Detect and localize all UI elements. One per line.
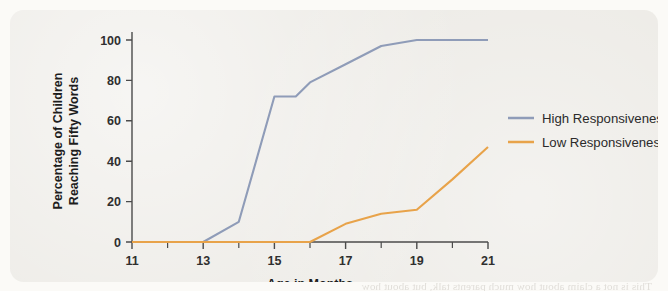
legend-label-low: Low Responsiveness: [542, 135, 658, 150]
chart-series: [132, 40, 488, 242]
x-tick-label: 17: [339, 254, 353, 268]
x-tick-label: 15: [267, 254, 281, 268]
series-line-low: [132, 147, 488, 242]
y-tick-label: 20: [107, 195, 121, 209]
y-tick-label: 80: [107, 74, 121, 88]
figure-panel: 020406080100111315171921 Age in MonthsPe…: [10, 10, 658, 282]
chart-legend: High ResponsivenessLow Responsiveness: [508, 111, 658, 150]
x-tick-label: 19: [410, 254, 424, 268]
x-tick-label: 13: [196, 254, 210, 268]
legend-label-high: High Responsiveness: [542, 111, 658, 126]
y-tick-label: 60: [107, 114, 121, 128]
chart-axis-titles: Age in MonthsPercentage of ChildrenReach…: [51, 73, 353, 282]
x-tick-label: 11: [125, 254, 138, 268]
x-tick-label: 21: [481, 254, 495, 268]
chart-plot-area: 020406080100111315171921 Age in MonthsPe…: [10, 10, 658, 282]
y-tick-label: 100: [100, 34, 121, 48]
line-chart: 020406080100111315171921 Age in MonthsPe…: [10, 10, 658, 282]
x-axis-title: Age in Months: [267, 277, 353, 282]
y-tick-label: 40: [107, 155, 121, 169]
y-axis-title-line: Percentage of Children: [51, 73, 65, 210]
chart-axes: 020406080100111315171921: [100, 32, 495, 268]
y-tick-label: 0: [114, 236, 121, 250]
series-line-high: [132, 40, 488, 242]
y-axis-title-line: Reaching Fifty Words: [67, 77, 81, 205]
